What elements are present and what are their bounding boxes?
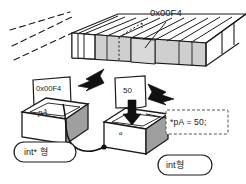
memory-cells-front-white <box>72 33 95 59</box>
address-card-label: 0x00F4 <box>36 85 61 93</box>
memory-continuation-lines <box>10 12 74 60</box>
pointer-box <box>22 98 88 144</box>
pointer-connector-dot <box>101 144 106 149</box>
code-note-text: *pA = 50; <box>170 118 207 127</box>
pointer-box-label: pA <box>38 108 47 117</box>
memory-address-label: 0x00F4 <box>150 8 182 18</box>
arrow-address-to-pointer <box>78 69 104 91</box>
value-box-label: a <box>119 130 123 137</box>
pointer-type-label: int* 형 <box>24 148 48 157</box>
value-card-label: 50 <box>123 87 132 95</box>
memory-target-cell <box>131 38 155 64</box>
pointer-assignment-diagram: 0x00F4 0x00F4 pA 50 a *pA = 50; int* 형 i… <box>0 0 246 184</box>
int-type-label: int형 <box>166 161 184 170</box>
arrow-value-to-variable <box>148 84 174 105</box>
